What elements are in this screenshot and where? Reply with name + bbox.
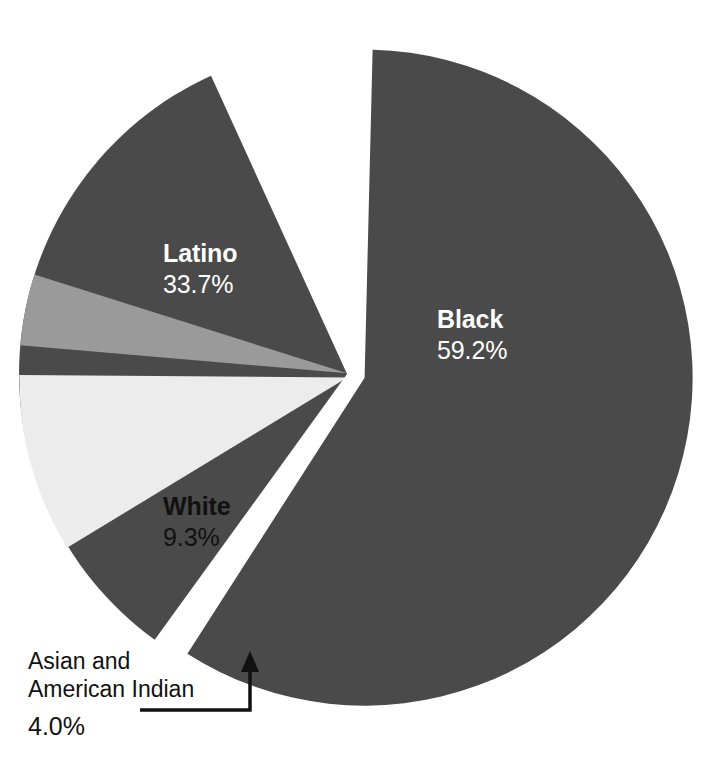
pie-chart-figure: Black 59.2% Latino 33.7% White 9.3% Asia…	[0, 0, 715, 759]
slice-label-white: White 9.3%	[163, 491, 231, 552]
slice-label-latino: Latino 33.7%	[163, 238, 237, 299]
slice-label-white-name: White	[163, 491, 231, 522]
slice-label-latino-name: Latino	[163, 238, 237, 269]
callout-line-1: Asian and	[28, 648, 194, 676]
callout-value: 4.0%	[28, 711, 194, 741]
pie-chart-canvas	[0, 0, 715, 759]
callout-line-2: American Indian	[28, 676, 194, 704]
slice-label-white-value: 9.3%	[163, 522, 231, 553]
slice-label-black-name: Black	[437, 304, 507, 335]
slice-label-black-value: 59.2%	[437, 335, 507, 366]
slice-label-latino-value: 33.7%	[163, 269, 237, 300]
callout-label-asian-american-indian: Asian and American Indian 4.0%	[28, 648, 194, 741]
slice-label-black: Black 59.2%	[437, 304, 507, 365]
